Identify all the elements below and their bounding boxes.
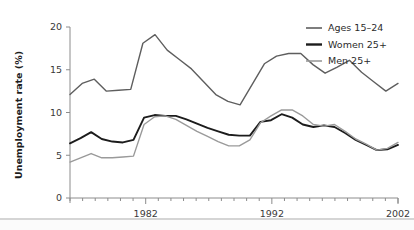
y-tick-label: 0 bbox=[56, 192, 62, 203]
unemployment-rate-line-chart: 05101520 198219922002 Ages 15–24Women 25… bbox=[0, 0, 414, 218]
y-tick-label: 15 bbox=[50, 64, 62, 75]
legend-label: Women 25+ bbox=[328, 39, 387, 50]
footer-background-band bbox=[0, 220, 414, 230]
x-tick-label: 1982 bbox=[134, 208, 158, 218]
figure-container: 05101520 198219922002 Ages 15–24Women 25… bbox=[0, 0, 414, 230]
y-tick-label: 10 bbox=[50, 107, 62, 118]
legend-label: Men 25+ bbox=[328, 55, 371, 66]
y-tick-label: 5 bbox=[56, 150, 62, 161]
x-tick-label: 2002 bbox=[386, 208, 410, 218]
legend-label: Ages 15–24 bbox=[328, 22, 383, 33]
x-tick-label: 1992 bbox=[260, 208, 284, 218]
y-tick-label: 20 bbox=[50, 21, 62, 32]
y-axis-title: Unemployment rate (%) bbox=[13, 51, 24, 179]
